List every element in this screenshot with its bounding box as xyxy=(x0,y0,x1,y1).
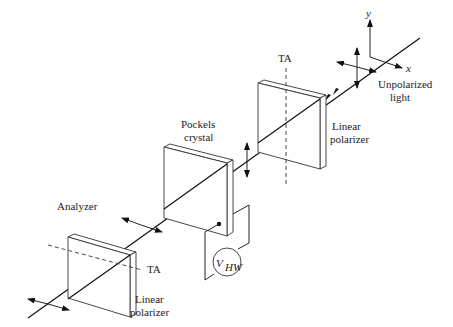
polarizer2-label-line1: Linear xyxy=(135,293,164,305)
pockels-label-line2: crystal xyxy=(184,131,213,143)
polarizer2-label-line2: polarizer xyxy=(130,306,169,318)
pockels-cell-diagram: y x Unpolarized light TA Linear polarize… xyxy=(0,0,453,327)
unpolarized-label-line2: light xyxy=(390,91,410,103)
horizontal-polarization-arrow-icon-mid xyxy=(122,218,162,232)
pockels-label-line1: Pockels xyxy=(181,118,215,130)
pockels-crystal xyxy=(164,144,233,236)
ta-bottom-label: TA xyxy=(147,263,161,275)
analyzer-label: Analyzer xyxy=(57,200,98,212)
horizontal-polarization-arrow-icon-out xyxy=(28,299,69,310)
coordinate-axes: y x xyxy=(365,7,411,74)
polarizer1-label-line1: Linear xyxy=(332,120,361,132)
x-axis-arrow-icon xyxy=(370,57,402,68)
axis-y-label: y xyxy=(365,7,371,19)
polarizer1-label-line2: polarizer xyxy=(330,133,369,145)
linear-polarizer-1 xyxy=(258,68,326,184)
voltage-subscript: HW xyxy=(224,261,243,273)
axis-x-label: x xyxy=(405,62,411,74)
ta-top-label: TA xyxy=(278,52,292,64)
unpolarized-label-line1: Unpolarized xyxy=(378,78,433,90)
